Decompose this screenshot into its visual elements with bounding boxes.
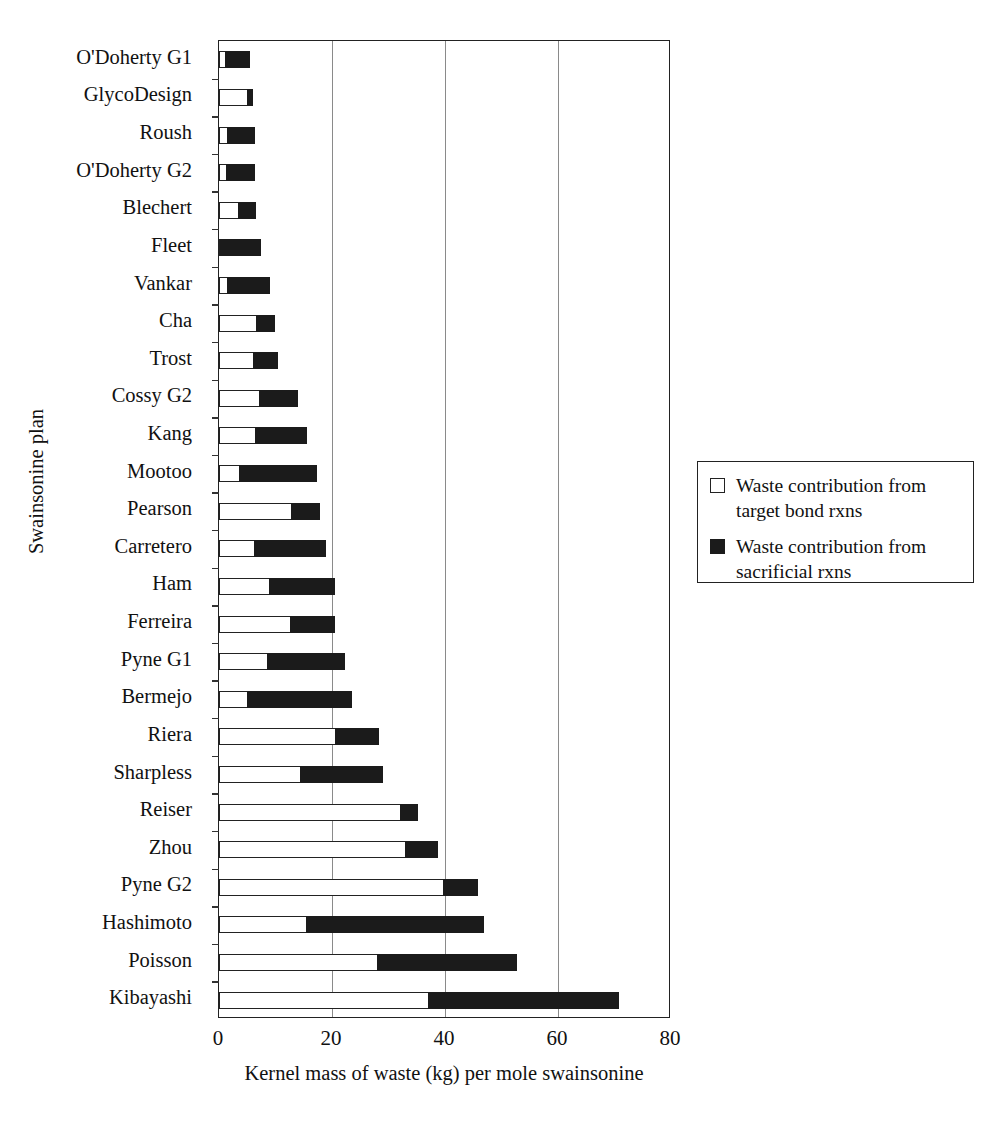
bar-segment-sacrificial xyxy=(377,954,518,971)
y-axis-label-roush: Roush xyxy=(140,122,192,142)
legend-label-sacrificial: Waste contribution fromsacrificial rxns xyxy=(736,534,926,584)
bar-row[interactable] xyxy=(219,841,438,858)
bar-segment-target-bond xyxy=(219,503,292,520)
bar-row[interactable] xyxy=(219,804,418,821)
y-axis-tick xyxy=(212,455,219,456)
bar-segment-target-bond xyxy=(219,578,270,595)
bar-segment-sacrificial xyxy=(247,691,352,708)
bar-segment-sacrificial xyxy=(254,540,326,557)
bar-row[interactable] xyxy=(219,427,307,444)
bar-row[interactable] xyxy=(219,691,352,708)
y-axis-tick xyxy=(212,79,219,80)
bar-segment-sacrificial xyxy=(225,51,250,68)
y-axis-tick xyxy=(212,229,219,230)
bar-segment-sacrificial xyxy=(335,728,380,745)
y-axis-label-pearson: Pearson xyxy=(127,498,192,518)
y-axis-tick xyxy=(212,530,219,531)
x-axis-tick-label-20: 20 xyxy=(301,1026,361,1051)
bar-segment-target-bond xyxy=(219,691,248,708)
white-square-icon xyxy=(710,478,725,493)
bar-segment-target-bond xyxy=(219,315,257,332)
bar-row[interactable] xyxy=(219,465,317,482)
y-axis-label-kang: Kang xyxy=(148,423,192,443)
bar-row[interactable] xyxy=(219,239,261,256)
bar-segment-sacrificial xyxy=(259,390,298,407)
y-axis-label-trost: Trost xyxy=(149,348,192,368)
bar-segment-target-bond xyxy=(219,465,240,482)
bar-row[interactable] xyxy=(219,202,256,219)
bar-segment-target-bond xyxy=(219,616,291,633)
bar-segment-sacrificial xyxy=(290,616,335,633)
bar-segment-target-bond xyxy=(219,728,336,745)
y-axis-tick xyxy=(212,342,219,343)
bar-segment-sacrificial xyxy=(247,89,253,106)
bar-row[interactable] xyxy=(219,89,253,106)
y-axis-tick xyxy=(212,944,219,945)
y-axis-tick xyxy=(212,643,219,644)
y-axis-tick xyxy=(212,756,219,757)
bar-segment-target-bond xyxy=(219,841,407,858)
y-axis-tick-labels: O'Doherty G1GlycoDesignRoushO'Doherty G2… xyxy=(0,40,206,1018)
bar-segment-target-bond xyxy=(219,202,239,219)
bar-row[interactable] xyxy=(219,916,484,933)
bar-row[interactable] xyxy=(219,653,345,670)
bar-segment-sacrificial xyxy=(306,916,485,933)
y-axis-label-blechert: Blechert xyxy=(123,197,192,217)
y-axis-label-ferreira: Ferreira xyxy=(127,611,192,631)
x-axis-tick-label-0: 0 xyxy=(188,1026,248,1051)
y-axis-label-ham: Ham xyxy=(152,573,192,593)
y-axis-label-cossy-g2: Cossy G2 xyxy=(112,385,192,405)
y-axis-tick xyxy=(212,568,219,569)
y-axis-label-o-doherty-g2: O'Doherty G2 xyxy=(76,160,192,180)
y-axis-tick xyxy=(212,869,219,870)
y-axis-tick xyxy=(212,191,219,192)
bar-row[interactable] xyxy=(219,954,517,971)
y-axis-label-bermejo: Bermejo xyxy=(121,686,192,706)
bar-segment-sacrificial xyxy=(291,503,320,520)
bar-row[interactable] xyxy=(219,127,255,144)
bar-segment-sacrificial xyxy=(443,879,477,896)
bar-segment-target-bond xyxy=(219,992,429,1009)
bar-row[interactable] xyxy=(219,616,335,633)
bar-row[interactable] xyxy=(219,766,383,783)
y-axis-tick xyxy=(212,981,219,982)
y-axis-tick xyxy=(212,605,219,606)
y-axis-label-pyne-g1: Pyne G1 xyxy=(121,649,192,669)
bar-row[interactable] xyxy=(219,992,619,1009)
y-axis-tick xyxy=(212,380,219,381)
bar-segment-target-bond xyxy=(219,916,307,933)
bar-row[interactable] xyxy=(219,728,379,745)
bar-row[interactable] xyxy=(219,352,278,369)
bar-row[interactable] xyxy=(219,879,478,896)
bar-row[interactable] xyxy=(219,164,255,181)
bar-row[interactable] xyxy=(219,578,335,595)
y-axis-label-reiser: Reiser xyxy=(140,799,192,819)
bar-segment-sacrificial xyxy=(256,315,275,332)
bar-segment-sacrificial xyxy=(400,804,418,821)
bar-row[interactable] xyxy=(219,277,270,294)
bar-row[interactable] xyxy=(219,315,275,332)
bar-row[interactable] xyxy=(219,390,298,407)
bar-row[interactable] xyxy=(219,540,326,557)
x-axis-tick-label-40: 40 xyxy=(414,1026,474,1051)
bar-segment-target-bond xyxy=(219,89,248,106)
bar-segment-sacrificial xyxy=(238,202,256,219)
y-axis-label-carretero: Carretero xyxy=(115,536,192,556)
y-axis-tick xyxy=(212,492,219,493)
legend-entry-target-bond: Waste contribution fromtarget bond rxns xyxy=(710,473,963,523)
y-axis-label-pyne-g2: Pyne G2 xyxy=(121,874,192,894)
bar-segment-sacrificial xyxy=(267,653,346,670)
x-axis-title: Kernel mass of waste (kg) per mole swain… xyxy=(218,1062,670,1085)
y-axis-label-sharpless: Sharpless xyxy=(113,762,192,782)
y-axis-tick xyxy=(212,417,219,418)
chart-figure: Swainsonine plan O'Doherty G1GlycoDesign… xyxy=(0,0,1000,1125)
bar-row[interactable] xyxy=(219,503,320,520)
y-axis-tick xyxy=(212,906,219,907)
y-axis-tick xyxy=(212,793,219,794)
y-axis-label-mootoo: Mootoo xyxy=(127,461,192,481)
bar-segment-sacrificial xyxy=(255,427,307,444)
y-axis-label-cha: Cha xyxy=(159,310,192,330)
bar-row[interactable] xyxy=(219,51,250,68)
y-axis-tick xyxy=(212,831,219,832)
bar-segment-target-bond xyxy=(219,954,378,971)
